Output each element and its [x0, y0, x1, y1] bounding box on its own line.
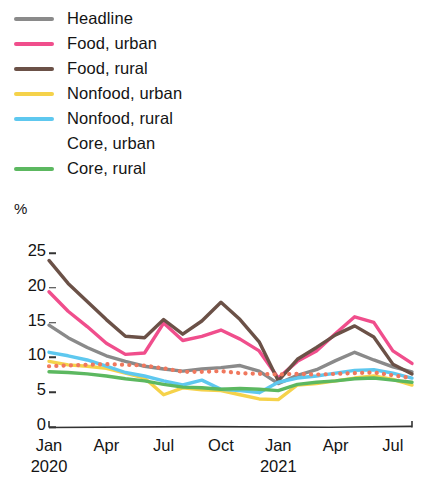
legend-line-icon [14, 167, 54, 171]
legend-item[interactable]: Core, urban [12, 131, 312, 156]
legend-swatch-headline [12, 6, 56, 31]
legend-label: Nonfood, rural [56, 109, 173, 128]
x-axis-tick-label: Apr [323, 436, 349, 455]
legend-swatch-core-rural [12, 156, 56, 181]
legend-swatch-food-rural [12, 56, 56, 81]
y-axis-tick-mark [49, 357, 56, 359]
legend-label: Food, rural [56, 59, 148, 78]
legend-item[interactable]: Nonfood, urban [12, 81, 312, 106]
legend-line-icon [14, 92, 54, 96]
inflation-line-chart: HeadlineFood, urbanFood, ruralNonfood, u… [0, 0, 428, 481]
y-axis-tick-mark [49, 287, 56, 289]
x-axis-tick-label: Jul [153, 436, 174, 455]
legend-label: Food, urban [56, 34, 157, 53]
y-axis-tick-label: 10 [0, 345, 46, 364]
legend-item[interactable]: Headline [12, 6, 312, 31]
legend-line-icon [14, 42, 54, 46]
legend-line-icon [14, 117, 54, 121]
y-axis-unit-label: % [14, 200, 27, 217]
legend-swatch-core-urban [12, 131, 56, 156]
x-axis-year-label: 2021 [260, 457, 297, 476]
legend-line-icon [14, 67, 54, 71]
x-axis-tick-label: Oct [208, 436, 234, 455]
legend-item[interactable]: Food, rural [12, 56, 312, 81]
y-axis-tick-label: 15 [0, 310, 46, 329]
legend-label: Core, rural [56, 159, 146, 178]
y-axis-tick-mark [49, 391, 56, 393]
legend-item[interactable]: Food, urban [12, 31, 312, 56]
legend-label: Core, urban [56, 134, 155, 153]
series-line-food-rural [49, 260, 412, 380]
y-axis-tick-mark [49, 426, 56, 428]
plot-area: %0510152025Jan2020AprJulOctJan2021AprJul [0, 196, 428, 481]
x-axis-line [49, 426, 412, 427]
x-axis-year-label: 2020 [31, 457, 68, 476]
legend-item[interactable]: Nonfood, rural [12, 106, 312, 131]
y-axis-tick-label: 5 [0, 380, 46, 399]
y-axis-tick-mark [49, 252, 56, 254]
x-axis-tick-label: Apr [93, 436, 119, 455]
series-line-core-rural [49, 372, 412, 391]
legend-label: Nonfood, urban [56, 84, 182, 103]
legend-swatch-nonfood-rural [12, 106, 56, 131]
x-axis-tick-label: Jul [382, 436, 403, 455]
y-axis-tick-label: 0 [0, 415, 46, 434]
chart-legend: HeadlineFood, urbanFood, ruralNonfood, u… [12, 6, 312, 181]
x-axis-tick-label: Jan [36, 436, 63, 455]
y-axis-tick-label: 20 [0, 275, 46, 294]
legend-swatch-food-urban [12, 31, 56, 56]
legend-item[interactable]: Core, rural [12, 156, 312, 181]
y-axis-tick-label: 25 [0, 241, 46, 260]
y-axis-tick-mark [49, 322, 56, 324]
legend-label: Headline [56, 9, 133, 28]
legend-line-icon [14, 17, 54, 21]
legend-swatch-nonfood-urban [12, 81, 56, 106]
legend-line-icon [14, 141, 54, 146]
x-axis-tick-label: Jan [265, 436, 292, 455]
